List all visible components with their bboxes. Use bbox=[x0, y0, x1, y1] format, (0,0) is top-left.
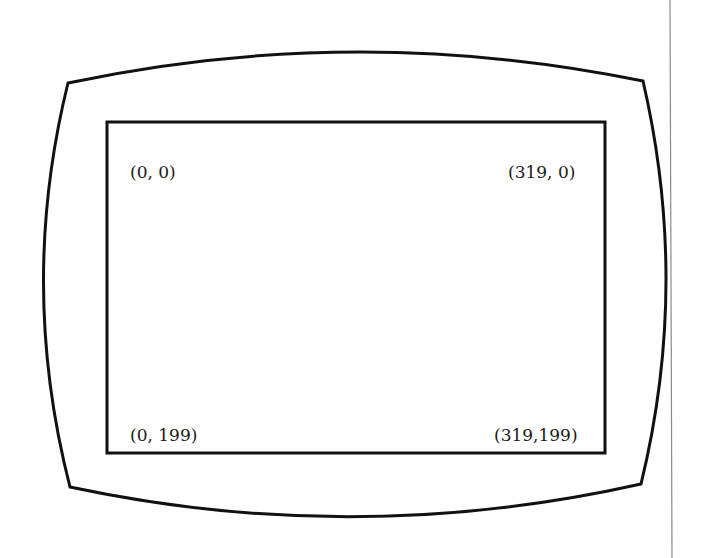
page-margin-rule bbox=[670, 0, 672, 558]
coord-label-top-right: (319, 0) bbox=[508, 164, 575, 181]
coord-label-bottom-left: (0, 199) bbox=[130, 427, 197, 444]
coord-label-top-left: (0, 0) bbox=[130, 164, 176, 181]
coord-label-bottom-right: (319,199) bbox=[494, 427, 578, 444]
screen-diagram bbox=[0, 0, 708, 558]
